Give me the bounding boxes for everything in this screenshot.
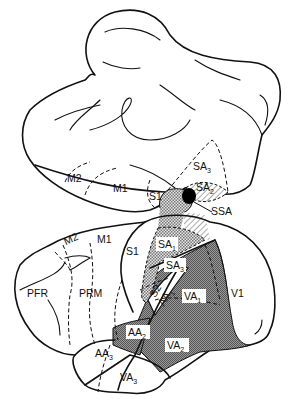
lower-brain-view: M2 M1 S1 PFR PRM SA1 SA3 S2 AA1 VA1 V1 A… <box>15 208 275 393</box>
upper-brain-view: M2 M1 S1 SA3 SA2 SSA <box>23 10 281 217</box>
label-v1: V1 <box>231 287 244 299</box>
label-lower-m2: M2 <box>62 230 80 247</box>
label-upper-m2: M2 <box>67 172 82 184</box>
label-lower-s1: S1 <box>126 245 139 257</box>
brain-diagram: M2 M1 S1 SA3 SA2 SSA <box>0 0 289 401</box>
label-upper-m1: M1 <box>113 182 128 194</box>
label-lower-m1: M1 <box>97 233 112 245</box>
label-upper-sa3: SA3 <box>193 160 211 174</box>
upper-outline <box>23 10 281 212</box>
ssa-spot <box>182 188 196 204</box>
label-va3: VA3 <box>120 371 137 385</box>
label-ssa: SSA <box>211 205 232 217</box>
label-upper-s1: S1 <box>149 190 162 202</box>
label-pfr: PFR <box>27 287 48 299</box>
label-aa3: AA3 <box>95 347 113 361</box>
label-prm: PRM <box>79 287 102 299</box>
